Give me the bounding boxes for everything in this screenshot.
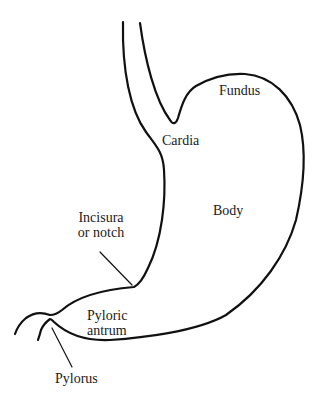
incisura-pointer-line bbox=[100, 252, 132, 285]
label-cardia: Cardia bbox=[162, 133, 199, 148]
pylorus-pointer-line bbox=[52, 328, 72, 367]
stomach-outline bbox=[0, 0, 314, 398]
label-body: Body bbox=[213, 203, 243, 218]
label-pylorus: Pylorus bbox=[55, 371, 98, 386]
greater-curvature-line bbox=[38, 23, 303, 340]
label-fundus: Fundus bbox=[219, 83, 260, 98]
lesser-curvature-line bbox=[15, 22, 164, 334]
stomach-diagram: Fundus Cardia Body Incisura or notch Pyl… bbox=[0, 0, 314, 398]
label-incisura: Incisura or notch bbox=[71, 210, 131, 240]
label-incisura-line1: Incisura bbox=[71, 210, 131, 225]
label-pyloric-antrum: Pyloric antrum bbox=[87, 308, 127, 338]
label-incisura-line2: or notch bbox=[71, 225, 131, 240]
label-pyloric-line1: Pyloric bbox=[87, 308, 127, 323]
label-pyloric-line2: antrum bbox=[87, 323, 127, 338]
